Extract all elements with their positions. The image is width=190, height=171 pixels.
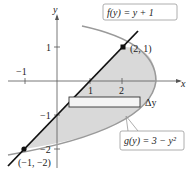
point-label-2-1: (2, 1) [130, 43, 152, 55]
point-2-1 [121, 45, 126, 50]
x-axis-label: x [180, 78, 186, 89]
y-axis-label: y [52, 4, 58, 15]
delta-y-label: Δy [145, 97, 156, 108]
y-tick-label-neg2: −2 [40, 144, 51, 155]
area-between-curves-diagram: y x −1 1 2 1 −1 −2 (2, 1) (−1, −2) f(y) … [0, 0, 190, 171]
parabola-label: g(y) = 3 − y² [124, 135, 177, 147]
x-tick-label-1: 1 [88, 85, 93, 96]
y-tick-label-neg1: −1 [40, 110, 51, 121]
x-tick-label-2: 2 [119, 85, 124, 96]
point-neg1-neg2 [21, 146, 26, 151]
delta-y-strip [69, 97, 140, 107]
line-label: f(y) = y + 1 [107, 7, 154, 19]
x-tick-label-neg1: −1 [16, 66, 27, 77]
point-label-neg1-neg2: (−1, −2) [18, 157, 51, 169]
y-tick-label-1: 1 [46, 42, 51, 53]
